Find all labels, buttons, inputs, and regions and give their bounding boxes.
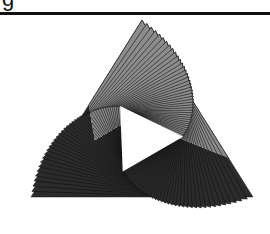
triangle-spiral-figure	[0, 0, 270, 234]
